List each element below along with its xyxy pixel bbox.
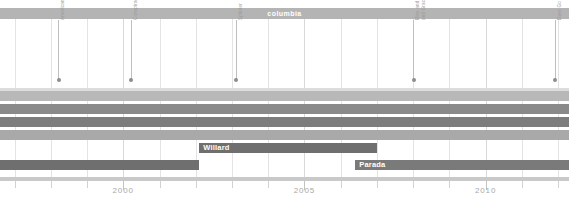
gridline — [268, 19, 269, 88]
gridline — [486, 19, 487, 88]
bar-willard: Willard — [199, 143, 377, 153]
axis-tick-minor — [15, 181, 16, 188]
bar-row — [0, 160, 199, 170]
event-stem — [58, 20, 59, 80]
gridline — [15, 19, 16, 88]
gridline — [341, 19, 342, 88]
gridline — [51, 19, 52, 88]
gridline — [304, 19, 305, 88]
gridline — [123, 19, 124, 88]
axis-label-year: 2010 — [475, 186, 496, 195]
gridline — [87, 19, 88, 88]
axis-label-year: 2000 — [112, 186, 133, 195]
axis-tick-minor — [413, 181, 414, 188]
axis-tick-minor — [449, 181, 450, 188]
bar-row — [0, 117, 569, 127]
gridline — [413, 19, 414, 88]
bar-row — [0, 130, 569, 140]
axis-tick-minor — [51, 181, 52, 188]
event-stem — [236, 20, 237, 80]
event-stem — [131, 20, 132, 80]
gridline — [558, 19, 559, 88]
axis-rule — [0, 177, 569, 181]
bar-parada: Parada — [355, 160, 569, 170]
axis-tick-minor — [268, 181, 269, 188]
bar-row — [0, 91, 569, 101]
gridline — [522, 19, 523, 88]
gridline — [377, 19, 378, 88]
event-dot-icon — [234, 78, 238, 82]
event-dot-icon — [553, 78, 557, 82]
axis-tick-minor — [558, 181, 559, 188]
axis-tick-minor — [377, 181, 378, 188]
axis-tick-minor — [522, 181, 523, 188]
axis-tick-minor — [232, 181, 233, 188]
gridline — [449, 19, 450, 88]
group-band-label: columbia — [0, 8, 569, 19]
axis-tick-minor — [341, 181, 342, 188]
bar-label: Willard — [203, 143, 229, 153]
gridline — [196, 19, 197, 88]
event-dot-icon — [129, 78, 133, 82]
group-band-columbia: columbia — [0, 8, 569, 19]
gridline — [160, 19, 161, 88]
bar-label: Parada — [359, 160, 385, 170]
axis-label-year: 2005 — [294, 186, 315, 195]
timeline-chart: columbia AmericanaConspiracy of OneSplin… — [0, 0, 569, 199]
gridline — [232, 19, 233, 88]
event-stem — [555, 20, 556, 80]
axis-tick-minor — [196, 181, 197, 188]
event-dot-icon — [57, 78, 61, 82]
bar-row — [0, 104, 569, 114]
axis-tick-minor — [160, 181, 161, 188]
bars-plot: WillardParada — [0, 91, 569, 177]
axis-tick-minor — [87, 181, 88, 188]
